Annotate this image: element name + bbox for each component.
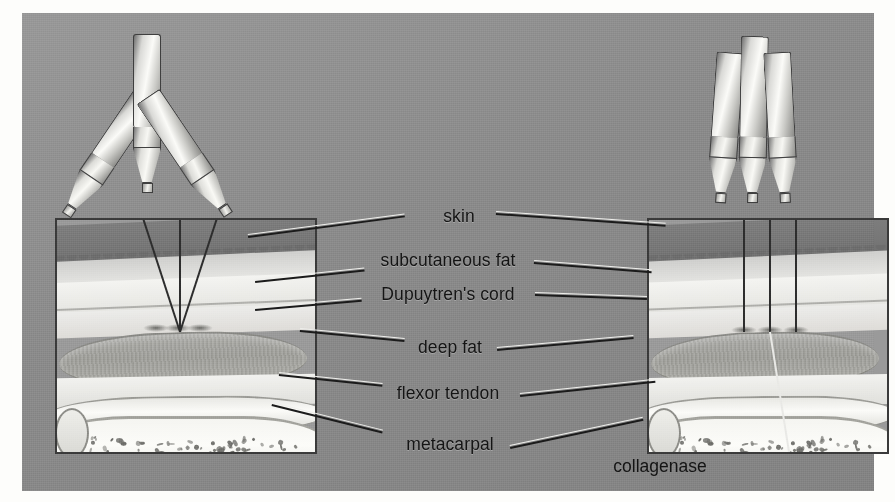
needle-left: [743, 218, 745, 332]
marrow-speckle: [828, 438, 832, 442]
label-skin: skin: [443, 206, 475, 227]
marrow-speckle: [88, 447, 92, 452]
marrow-speckle: [106, 450, 109, 454]
marrow-speckle: [180, 447, 183, 451]
marrow-speckle: [769, 439, 775, 443]
needle-hub: [142, 183, 153, 193]
marrow-speckle: [854, 444, 858, 450]
marrow-speckle: [279, 452, 283, 454]
marrow-speckle: [91, 441, 95, 445]
marrow-speckle: [741, 442, 748, 446]
marrow-speckle: [844, 444, 850, 449]
marrow-speckle: [678, 447, 682, 452]
marrow-speckle: [95, 438, 97, 441]
marrow-speckle: [698, 437, 702, 441]
marrow-speckle: [270, 453, 278, 454]
marrow-speckle: [725, 441, 730, 445]
marrow-speckle: [792, 448, 796, 452]
marrow-speckle: [199, 446, 203, 450]
injection-bleb: [187, 324, 213, 332]
marrow-speckle: [194, 445, 200, 451]
marrow-speckle: [738, 447, 745, 454]
marrow-speckle: [223, 446, 226, 450]
marrow-speckle: [110, 437, 114, 441]
syringe-cone: [769, 157, 799, 193]
marrow-speckle: [260, 442, 265, 447]
figure-collagenase-injection: skin subcutaneous fat Dupuytren's cord d…: [0, 0, 895, 502]
marrow-speckle: [168, 442, 175, 444]
label-subcutaneous-fat: subcutaneous fat: [381, 250, 516, 271]
label-flexor-tendon: flexor tendon: [397, 383, 499, 404]
marrow-speckle: [251, 438, 255, 442]
marrow-speckle: [140, 441, 145, 445]
marrow-speckle: [861, 453, 867, 454]
marrow-speckle: [286, 453, 292, 454]
marrow-speckle: [212, 448, 216, 452]
syringe-cone: [133, 148, 161, 183]
needle-center: [769, 218, 771, 332]
bone-marrow-speckles: [78, 436, 305, 454]
panel-parallel-needles: [647, 218, 889, 454]
label-deep-fat: deep fat: [418, 337, 482, 358]
label-collagenase: collagenase: [613, 456, 706, 477]
marrow-speckle: [684, 438, 686, 441]
marrow-speckle: [751, 442, 758, 444]
marrow-speckle: [159, 450, 165, 454]
syringe-collar: [768, 136, 797, 158]
marrow-speckle: [867, 444, 872, 449]
marrow-speckle: [273, 452, 278, 454]
marrow-speckle: [680, 441, 684, 445]
marrow-speckle: [211, 441, 216, 445]
marrow-speckle: [694, 450, 697, 454]
marrow-speckle: [836, 442, 841, 447]
syringe-cone: [738, 158, 767, 193]
marrow-speckle: [802, 446, 805, 450]
marrow-speckle: [293, 444, 298, 449]
needle-right: [795, 218, 797, 332]
marrow-speckle: [279, 444, 283, 450]
syringe-barrel: [763, 51, 795, 137]
panel-converging-needles: [55, 218, 317, 454]
label-dupuytrens-cord: Dupuytren's cord: [381, 284, 514, 305]
marrow-speckle: [269, 444, 275, 449]
marrow-speckle: [116, 438, 123, 443]
bone-marrow-speckles: [668, 436, 877, 454]
marrow-speckle: [187, 439, 193, 443]
syringe-collar: [739, 137, 767, 158]
label-metacarpal: metacarpal: [406, 434, 494, 455]
marrow-speckle: [157, 442, 164, 446]
syringe-cone: [707, 157, 737, 194]
needle-hub: [747, 193, 758, 203]
marrow-speckle: [845, 453, 853, 454]
needle-hub: [715, 193, 727, 204]
marrow-speckle: [849, 452, 854, 454]
marrow-speckle: [723, 449, 725, 452]
marrow-speckle: [854, 452, 858, 454]
needle-hub: [779, 193, 791, 204]
marrow-speckle: [767, 445, 772, 450]
marrow-speckle: [791, 441, 796, 445]
syringe-collar: [709, 136, 738, 159]
needle-center: [179, 218, 181, 332]
marrow-speckle: [185, 445, 190, 450]
marrow-speckle: [137, 449, 139, 452]
marrow-speckle: [205, 450, 213, 454]
